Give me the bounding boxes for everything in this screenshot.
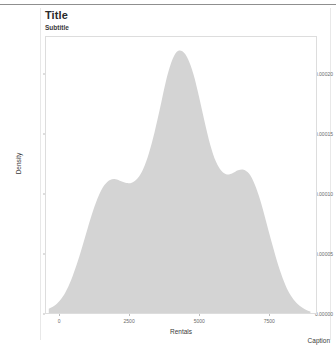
x-tick-mark bbox=[199, 314, 200, 316]
x-axis-label: Rentals bbox=[45, 328, 317, 335]
x-tick-label: 5000 bbox=[179, 318, 219, 324]
x-tick-label: 7500 bbox=[249, 318, 289, 324]
chart-title: Title bbox=[45, 9, 68, 21]
panel-border-left bbox=[40, 8, 41, 340]
x-tick-mark bbox=[59, 314, 60, 316]
chart-caption: Caption bbox=[308, 337, 330, 344]
panel-border-right bbox=[330, 8, 331, 340]
y-axis-label: Density bbox=[15, 134, 22, 194]
x-tick-label: 0 bbox=[39, 318, 79, 324]
x-tick-label: 2500 bbox=[109, 318, 149, 324]
x-tick-mark bbox=[269, 314, 270, 316]
chart-subtitle: Subtitle bbox=[45, 24, 69, 31]
top-divider-rule bbox=[0, 4, 336, 5]
density-plot-figure: Title Subtitle Density Rentals 0.000000.… bbox=[0, 0, 336, 348]
density-area-path bbox=[49, 50, 311, 313]
plot-area bbox=[45, 36, 317, 314]
density-area-svg bbox=[46, 37, 316, 313]
x-tick-mark bbox=[129, 314, 130, 316]
